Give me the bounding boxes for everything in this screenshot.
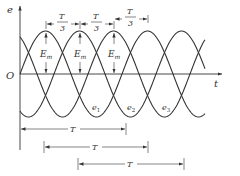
svg-text:Em: Em [39, 49, 53, 60]
x-axis-label: t [214, 78, 219, 89]
svg-text:3: 3 [60, 24, 65, 33]
three-phase-waveform-diagram: e t O Em Em Em T 3 T 3 T [0, 0, 240, 176]
svg-text:Em: Em [73, 49, 87, 60]
amplitude-marker-2: Em [73, 33, 87, 73]
svg-text:T: T [93, 12, 99, 21]
diagram-canvas: e t O Em Em Em T 3 T 3 T [0, 0, 240, 176]
svg-text:T: T [92, 143, 98, 152]
svg-text:Em: Em [107, 49, 121, 60]
phase-spacing-markers: T 3 T 3 T 3 [46, 7, 148, 33]
svg-text:T: T [59, 12, 65, 21]
svg-text:T: T [127, 7, 133, 16]
period-arrow-3: T [78, 158, 184, 170]
amplitude-marker-1: Em [39, 33, 53, 73]
svg-text:3: 3 [94, 24, 99, 33]
svg-text:T: T [127, 160, 133, 169]
period-arrow-1: T [21, 123, 126, 135]
y-axis-label: e [7, 4, 13, 15]
origin-label: O [6, 70, 14, 81]
svg-text:3: 3 [128, 19, 133, 28]
svg-text:T: T [70, 125, 76, 134]
amplitude-marker-3: Em [107, 33, 121, 73]
wave-label-e1: e1 [92, 103, 100, 113]
wave-label-e2: e2 [127, 103, 135, 113]
wave-label-e3: e3 [162, 103, 171, 113]
period-arrow-2: T [44, 141, 148, 153]
